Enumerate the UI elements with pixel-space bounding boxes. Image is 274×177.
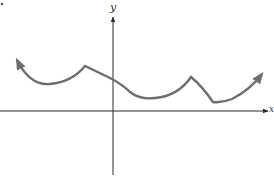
y-axis-label: y: [110, 2, 116, 13]
x-axis-label: x: [269, 105, 274, 114]
function-graph: [0, 0, 274, 177]
function-curve: [17, 60, 262, 102]
